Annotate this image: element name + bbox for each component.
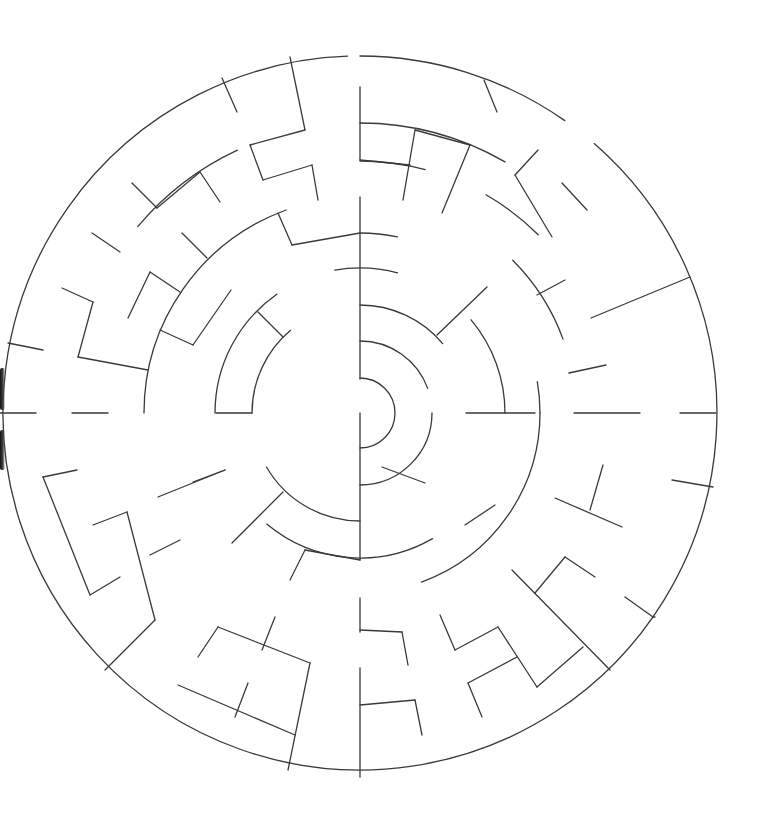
maze-wall-segment	[382, 467, 425, 483]
maze-wall-segment	[128, 272, 150, 318]
circular-maze	[0, 0, 757, 827]
maze-wall-segment	[535, 557, 565, 593]
maze-wall-segment	[569, 365, 606, 373]
maze-wall-segment	[437, 287, 487, 335]
maze-wall-segment	[591, 277, 690, 318]
maze-wall-segment	[590, 465, 603, 510]
maze-wall-segment	[565, 557, 595, 577]
maze-wall-segment	[93, 512, 127, 525]
maze-wall-segment	[360, 700, 415, 705]
maze-wall-segment	[90, 577, 120, 595]
maze-wall-segment	[78, 357, 148, 370]
maze-wall-segment	[468, 683, 482, 717]
maze-wall-segment	[263, 165, 312, 180]
maze-wall-segment	[8, 343, 43, 350]
maze-wall-segment	[415, 130, 470, 145]
maze-wall-segment	[258, 312, 283, 337]
maze-wall-segment	[105, 620, 155, 670]
maze-wall-segment	[402, 632, 408, 665]
maze-wall-segment	[150, 272, 180, 292]
left-edge-shadow	[0, 368, 5, 410]
maze-wall-segment	[178, 685, 295, 735]
maze-wall-segment	[515, 175, 552, 237]
maze-wall-segment	[232, 492, 283, 543]
maze-wall-segment	[157, 172, 200, 208]
maze-ring-wall	[215, 294, 277, 413]
maze-wall-segment	[250, 130, 305, 145]
maze-ring-wall	[267, 524, 433, 558]
maze-ring-wall	[471, 320, 505, 413]
maze-ring-wall	[252, 330, 291, 413]
maze-wall-segment	[43, 477, 90, 595]
maze-wall-segment	[455, 627, 498, 650]
maze-ring-wall	[360, 56, 565, 121]
maze-wall-segment	[278, 213, 292, 245]
maze-wall-segment	[465, 505, 495, 525]
maze-ring-wall	[335, 268, 398, 273]
maze-wall-segment	[468, 657, 517, 683]
maze-ring-wall	[138, 150, 238, 226]
maze-ring-wall	[144, 210, 286, 413]
maze-wall-segment	[78, 302, 93, 357]
maze-wall-segment	[198, 627, 218, 657]
maze-wall-segment	[442, 145, 470, 213]
maze-wall-segment	[484, 80, 497, 112]
maze-wall-segment	[562, 183, 587, 210]
maze-wall-segment	[160, 330, 193, 345]
maze-wall-segment	[555, 498, 622, 527]
maze-ring-wall	[422, 413, 540, 582]
maze-wall-segment	[360, 630, 402, 632]
maze-wall-segment	[290, 57, 305, 130]
maze-wall-segment	[250, 145, 263, 180]
maze-wall-segment	[222, 78, 237, 112]
maze-wall-segment	[537, 647, 583, 687]
maze-wall-segment	[440, 615, 455, 650]
maze-ring-wall	[513, 260, 563, 339]
maze-wall-segment	[193, 470, 225, 482]
maze-wall-segment	[512, 570, 610, 670]
maze-wall-segment	[305, 550, 360, 560]
maze-ring-wall	[360, 305, 443, 344]
maze-wall-segment	[415, 700, 422, 735]
maze-wall-segment	[625, 597, 653, 617]
maze-ring-wall	[537, 382, 540, 413]
maze-wall-segment	[150, 540, 180, 555]
maze-wall-segment	[92, 233, 120, 252]
maze-wall-segment	[43, 470, 77, 477]
maze-ring-wall	[360, 233, 397, 237]
maze-wall-segment	[515, 150, 538, 175]
maze-ring-wall	[360, 413, 432, 485]
maze-ring-wall	[360, 341, 428, 388]
maze-wall-segment	[360, 160, 410, 165]
left-edge-shadow	[0, 430, 5, 470]
maze-drawing	[0, 0, 757, 827]
maze-ring-wall	[360, 378, 395, 448]
maze-wall-segment	[200, 172, 220, 202]
maze-wall-segment	[672, 480, 713, 487]
maze-wall-segment	[537, 280, 565, 295]
maze-ring-wall	[360, 123, 505, 162]
maze-wall-segment	[290, 550, 305, 580]
maze-wall-segment	[292, 233, 360, 245]
maze-wall-segment	[182, 233, 207, 258]
maze-wall-segment	[127, 512, 155, 620]
maze-wall-segment	[288, 663, 310, 770]
maze-ring-wall	[360, 161, 425, 170]
maze-wall-segment	[62, 288, 93, 302]
maze-wall-segment	[262, 617, 275, 650]
maze-wall-segment	[312, 165, 318, 200]
maze-wall-segment	[132, 183, 157, 208]
maze-wall-segment	[193, 290, 231, 345]
